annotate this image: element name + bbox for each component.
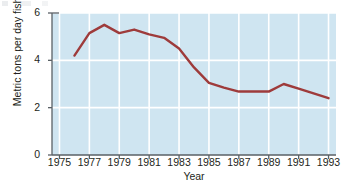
x-axis-title: Year (52, 170, 336, 182)
x-tick-label: 1987 (227, 157, 250, 168)
x-tick-label: 1993 (317, 157, 340, 168)
x-tick-label: 1989 (257, 157, 280, 168)
x-tick-label: 1981 (137, 157, 160, 168)
x-tick-label: 1991 (287, 157, 310, 168)
plot-area-background (52, 13, 336, 155)
x-axis-tick-labels: 1975197719791981198319851987198919911993 (0, 157, 343, 171)
x-tick-label: 1983 (167, 157, 190, 168)
y-axis-title: Metric tons per day fished (11, 0, 23, 121)
x-tick-label: 1985 (197, 157, 220, 168)
y-tick-label: 2 (26, 102, 40, 113)
chart-figure: 0246 19751977197919811983198519871989199… (0, 0, 343, 186)
x-tick-label: 1975 (48, 157, 71, 168)
y-tick-label: 6 (26, 7, 40, 18)
y-tick-label: 4 (26, 54, 40, 65)
x-tick-label: 1977 (78, 157, 101, 168)
x-tick-label: 1979 (108, 157, 131, 168)
